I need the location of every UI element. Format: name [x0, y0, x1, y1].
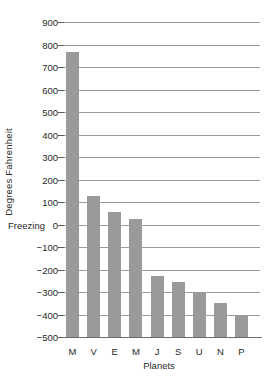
bar: [193, 292, 206, 337]
gridline: [62, 157, 260, 158]
y-axis-tick: [58, 67, 64, 68]
y-axis-tick: [58, 112, 64, 113]
y-axis-tick: [58, 90, 64, 91]
y-axis-tick-label: 900: [42, 17, 58, 28]
gridline: [62, 135, 260, 136]
y-axis-tick-label: −400: [37, 309, 58, 320]
x-axis-tick-label: E: [112, 346, 118, 357]
gridline: [62, 22, 260, 23]
y-axis-tick-label: 200: [42, 174, 58, 185]
bar-chart: Degrees Fahrenheit 900800700600500400300…: [0, 0, 270, 381]
y-axis-tick: [58, 292, 64, 293]
x-axis-tick-label: V: [90, 346, 96, 357]
y-axis-tick: [58, 270, 64, 271]
y-axis-tick: [58, 202, 64, 203]
y-axis-tick-label: 600: [42, 84, 58, 95]
y-axis-tick: [58, 157, 64, 158]
x-axis-line: [62, 337, 262, 338]
y-axis-tick: [58, 135, 64, 136]
y-axis-title: Degrees Fahrenheit: [0, 0, 16, 381]
y-axis-tick: [58, 225, 64, 226]
bar: [108, 212, 121, 337]
y-axis-tick-label: 500: [42, 107, 58, 118]
y-axis-tick: [58, 22, 64, 23]
y-axis-tick: [58, 180, 64, 181]
y-axis-title-label: Degrees Fahrenheit: [3, 128, 14, 216]
gridline: [62, 112, 260, 113]
y-axis-tick-label: −500: [37, 332, 58, 343]
x-axis-tick-label: N: [217, 346, 224, 357]
y-axis-tick-label: 100: [42, 197, 58, 208]
gridline: [62, 67, 260, 68]
bar: [129, 219, 142, 337]
y-axis-tick-label: 700: [42, 62, 58, 73]
y-axis-tick: [58, 247, 64, 248]
x-axis-title: Planets: [58, 360, 260, 371]
x-axis-tick-labels: MVEMJSUNP: [58, 346, 260, 360]
y-axis-tick-label: 800: [42, 39, 58, 50]
x-axis-title-label: Planets: [143, 360, 175, 371]
y-axis-tick-label: 300: [42, 152, 58, 163]
x-axis-tick-label: S: [175, 346, 181, 357]
y-axis-tick: [58, 45, 64, 46]
bar: [172, 282, 185, 337]
y-axis-tick-label: 400: [42, 129, 58, 140]
bar: [87, 196, 100, 337]
bar: [66, 52, 79, 337]
bar: [151, 276, 164, 337]
y-axis-tick-label: −200: [37, 264, 58, 275]
gridline: [62, 90, 260, 91]
freezing-annotation: Freezing: [8, 219, 45, 230]
x-axis-tick-label: J: [155, 346, 160, 357]
x-axis-tick-label: M: [69, 346, 77, 357]
x-axis-tick-label: P: [238, 346, 244, 357]
bar: [235, 315, 248, 338]
plot-area: [58, 14, 260, 345]
y-axis-tick-label: −100: [37, 242, 58, 253]
bar: [214, 303, 227, 337]
y-axis-tick-labels: 9008007006005004003002001000−100−200−300…: [18, 0, 58, 381]
y-axis-tick: [58, 315, 64, 316]
x-axis-tick-label: U: [196, 346, 203, 357]
gridline: [62, 45, 260, 46]
x-axis-tick-label: M: [132, 346, 140, 357]
y-axis-tick-label: −300: [37, 287, 58, 298]
gridline: [62, 180, 260, 181]
